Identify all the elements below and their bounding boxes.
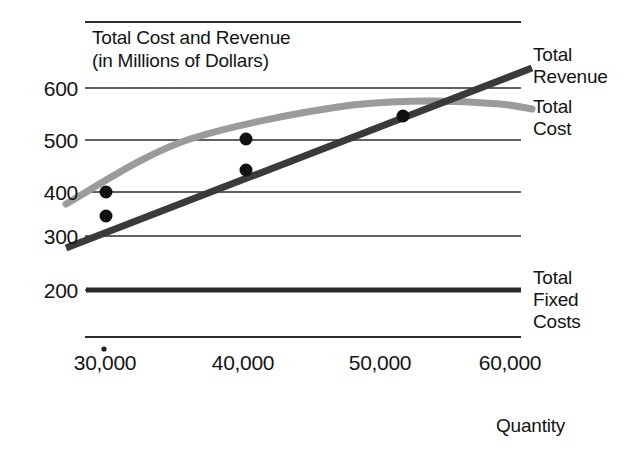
x-axis-title: Quantity xyxy=(496,415,565,437)
series-label-total-revenue: Total Revenue xyxy=(533,44,608,88)
series-total-cost-curve xyxy=(66,101,532,204)
series-label-total-fixed-costs: Total Fixed Costs xyxy=(533,267,581,333)
marker-cost-40000 xyxy=(240,133,253,146)
marker-revenue-30000 xyxy=(100,210,113,223)
y-tick-300: 300 xyxy=(20,226,78,247)
marker-breakeven xyxy=(397,110,410,123)
chart-container: Total Cost and Revenue(in Millions of Do… xyxy=(0,0,638,452)
chart-title-line2: (in Millions of Dollars) xyxy=(92,49,392,72)
chart-title: Total Cost and Revenue(in Millions of Do… xyxy=(92,26,392,72)
x-tick-50000: 50,000 xyxy=(325,352,435,373)
chart-title-line1: Total Cost and Revenue xyxy=(92,27,290,48)
y-tick-400: 400 xyxy=(20,182,78,203)
x-tick-60000: 60,000 xyxy=(455,352,565,373)
y-tick-200: 200 xyxy=(20,280,78,301)
x-tick-30000: 30,000 xyxy=(50,352,160,373)
x-tick-40000: 40,000 xyxy=(188,352,298,373)
marker-cost-30000 xyxy=(100,186,113,199)
y-tick-600: 600 xyxy=(20,78,78,99)
y-tick-500: 500 xyxy=(20,130,78,151)
marker-revenue-40000 xyxy=(240,164,253,177)
series-label-total-cost: Total Cost xyxy=(533,96,572,140)
series-total-revenue-line xyxy=(66,68,532,248)
